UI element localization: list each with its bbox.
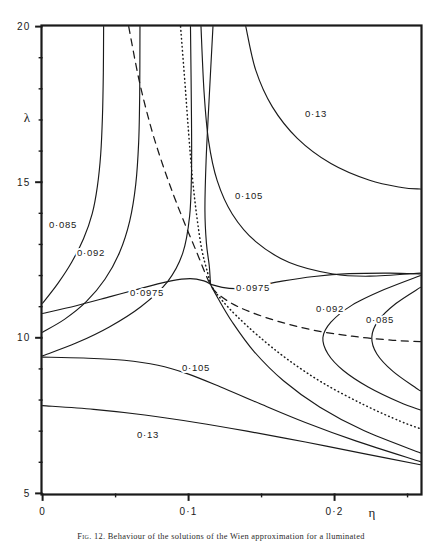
y-tick-label: 10 [17, 332, 31, 343]
plot-frame [42, 26, 422, 495]
y-axis-label: λ [24, 110, 31, 125]
lbl-0085-right: 0·085 [366, 314, 394, 325]
contour-path-4 [246, 27, 421, 189]
lbl-013-bot: 0·13 [137, 429, 159, 440]
y-tick-label: 15 [17, 177, 31, 188]
axis-tick-labels: 201510500·10·2 [17, 21, 344, 517]
lbl-0085-left: 0·085 [49, 219, 77, 230]
figure-caption: Fig. 12. Behaviour of the solutions of t… [0, 532, 442, 541]
contour-plot-svg: 201510500·10·2 λ η 0·130·130·1050·1050·0… [0, 0, 442, 532]
lbl-00975-left: 0·0975 [130, 287, 164, 298]
figure-caption-text: Behaviour of the solutions of the Wien a… [108, 532, 365, 541]
y-tick-label: 20 [17, 21, 31, 32]
x-tick-label: 0·1 [180, 506, 198, 517]
contour-curves [43, 27, 421, 465]
lbl-0092-right: 0·092 [316, 303, 344, 314]
figure-contour-plot: 201510500·10·2 λ η 0·130·130·1050·1050·0… [0, 0, 442, 546]
contour-path-12 [43, 406, 421, 465]
contour-path-14 [181, 27, 421, 429]
figure-number: Fig. 12. [77, 532, 105, 541]
contour-path-1 [43, 27, 140, 333]
x-axis-label: η [369, 505, 376, 520]
y-tick-label: 5 [24, 488, 31, 499]
contour-path-3 [201, 27, 420, 277]
axes-frame-rect [42, 26, 422, 495]
lbl-0105-top: 0·105 [235, 190, 263, 201]
contour-path-7 [205, 27, 213, 285]
contour-path-0 [43, 27, 104, 304]
lbl-0105-bot: 0·105 [182, 362, 210, 373]
contour-path-2 [43, 27, 192, 356]
contour-path-5 [43, 279, 211, 314]
x-tick-label: 0 [39, 506, 46, 517]
x-tick-label: 0·2 [326, 506, 344, 517]
contour-path-9 [323, 276, 421, 410]
lbl-0092-left: 0·092 [77, 247, 105, 258]
lbl-013-top: 0·13 [305, 108, 327, 119]
lbl-00975-right: 0·0975 [236, 282, 270, 293]
contour-path-13 [129, 27, 421, 342]
